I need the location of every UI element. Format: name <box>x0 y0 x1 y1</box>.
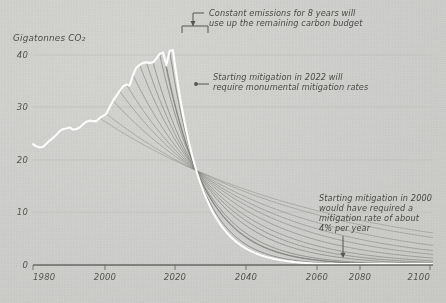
x-tick-label-2020: 2020 <box>164 272 186 282</box>
annotation-carbon-budget-line-2: use up the remaining carbon budget <box>209 18 363 28</box>
y-tick-label-0: 0 <box>22 260 28 270</box>
mitigation-pathway-2004 <box>113 101 433 246</box>
annotation-mitigation-2022-line-2: require monumental mitigation rates <box>213 82 369 92</box>
y-tick-label-10: 10 <box>17 207 28 217</box>
mitigation-pathway-2006 <box>120 91 433 250</box>
annotation-mitigation-2000-line-3: mitigation rate of about <box>319 213 420 223</box>
annotation-mitigation-2000-line-1: Starting mitigation in 2000 <box>319 193 432 203</box>
mitigation-pathway-2020 <box>166 66 433 265</box>
x-tick-label-2040: 2040 <box>235 272 257 282</box>
x-tick-label-2100: 2100 <box>408 272 430 282</box>
mitigation-pathway-2008 <box>126 84 433 254</box>
x-tick-label-2080: 2080 <box>349 272 371 282</box>
emissions-pathways-chart: 40 30 20 10 0 Gigatonnes CO₂ 1980 2000 2… <box>0 0 446 303</box>
annotation-mitigation-2000-line-4: 4% per year <box>319 223 371 233</box>
x-tick-label-2000: 2000 <box>94 272 116 282</box>
y-tick-label-20: 20 <box>17 155 28 165</box>
annotation-carbon-budget-line-1: Constant emissions for 8 years will <box>209 8 356 18</box>
annotation-mitigation-2022-line-1: Starting mitigation in 2022 will <box>213 72 343 82</box>
annotation-carbon-budget: Constant emissions for 8 years will use … <box>182 8 363 33</box>
y-tick-label-40: 40 <box>17 50 28 60</box>
mitigation-pathway-2012 <box>140 65 433 261</box>
historical-emissions-line <box>33 50 173 147</box>
x-tick-label-1980: 1980 <box>33 272 55 282</box>
x-axis-ticks <box>33 265 430 270</box>
y-axis-title: Gigatonnes CO₂ <box>13 33 86 43</box>
x-tick-label-2060: 2060 <box>306 272 328 282</box>
annotation-mitigation-2022: Starting mitigation in 2022 will require… <box>194 72 369 92</box>
annotation-mitigation-2000-line-2: would have required a <box>319 203 413 213</box>
y-tick-label-30: 30 <box>17 102 28 112</box>
chart-canvas: 40 30 20 10 0 Gigatonnes CO₂ 1980 2000 2… <box>0 0 446 303</box>
